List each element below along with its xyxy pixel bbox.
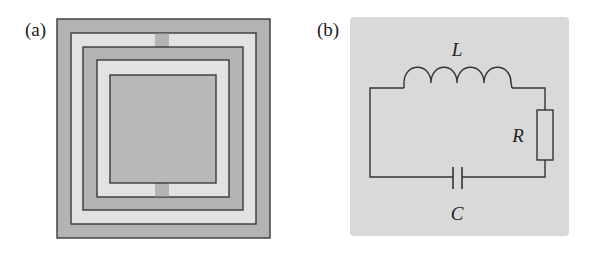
figure-canvas: L R C xyxy=(0,0,594,262)
top-bridge xyxy=(155,34,169,47)
split-ring-resonator xyxy=(57,19,270,238)
inductor-label: L xyxy=(451,39,463,60)
inner-square xyxy=(110,75,216,183)
bottom-bridge xyxy=(155,183,169,196)
resistor-label: R xyxy=(511,125,524,146)
rlc-circuit-panel: L R C xyxy=(350,17,569,236)
capacitor-label: C xyxy=(451,203,464,224)
